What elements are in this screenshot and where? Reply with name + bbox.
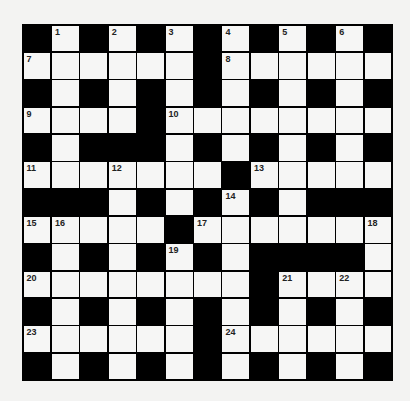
grid-cell[interactable]: 10 <box>166 108 193 134</box>
grid-cell[interactable] <box>365 272 392 298</box>
grid-cell[interactable]: 16 <box>52 217 79 243</box>
grid-cell[interactable] <box>137 217 164 243</box>
grid-cell[interactable] <box>109 272 136 298</box>
grid-cell[interactable]: 6 <box>336 26 363 52</box>
grid-cell[interactable] <box>251 326 278 352</box>
grid-cell[interactable] <box>279 190 306 216</box>
grid-cell[interactable] <box>308 217 335 243</box>
grid-cell[interactable] <box>365 108 392 134</box>
grid-cell[interactable] <box>336 53 363 79</box>
grid-cell[interactable] <box>80 162 107 188</box>
grid-cell[interactable] <box>52 354 79 380</box>
grid-cell[interactable] <box>109 299 136 325</box>
grid-cell[interactable] <box>336 299 363 325</box>
grid-cell[interactable]: 20 <box>24 272 51 298</box>
grid-cell[interactable] <box>222 354 249 380</box>
grid-cell[interactable] <box>251 217 278 243</box>
grid-cell[interactable] <box>279 135 306 161</box>
grid-cell[interactable] <box>279 217 306 243</box>
grid-cell[interactable] <box>109 326 136 352</box>
grid-cell[interactable] <box>222 299 249 325</box>
grid-cell[interactable]: 11 <box>24 162 51 188</box>
grid-cell[interactable] <box>336 80 363 106</box>
grid-cell[interactable]: 18 <box>365 217 392 243</box>
grid-cell[interactable] <box>80 53 107 79</box>
grid-cell[interactable] <box>279 326 306 352</box>
grid-cell[interactable] <box>279 354 306 380</box>
grid-cell[interactable] <box>336 108 363 134</box>
grid-cell[interactable] <box>365 53 392 79</box>
grid-cell[interactable]: 5 <box>279 26 306 52</box>
grid-cell[interactable]: 9 <box>24 108 51 134</box>
grid-cell[interactable] <box>109 108 136 134</box>
grid-cell[interactable] <box>222 135 249 161</box>
grid-cell[interactable]: 3 <box>166 26 193 52</box>
grid-cell[interactable] <box>137 53 164 79</box>
grid-cell[interactable]: 1 <box>52 26 79 52</box>
grid-cell[interactable] <box>308 162 335 188</box>
grid-cell[interactable] <box>109 244 136 270</box>
grid-cell[interactable] <box>166 190 193 216</box>
grid-cell[interactable] <box>137 326 164 352</box>
grid-cell[interactable] <box>194 272 221 298</box>
grid-cell[interactable] <box>194 108 221 134</box>
grid-cell[interactable]: 23 <box>24 326 51 352</box>
grid-cell[interactable]: 13 <box>251 162 278 188</box>
grid-cell[interactable]: 8 <box>222 53 249 79</box>
grid-cell[interactable]: 2 <box>109 26 136 52</box>
grid-cell[interactable] <box>194 162 221 188</box>
grid-cell[interactable] <box>166 354 193 380</box>
grid-cell[interactable]: 14 <box>222 190 249 216</box>
grid-cell[interactable] <box>365 244 392 270</box>
grid-cell[interactable] <box>166 80 193 106</box>
grid-cell[interactable] <box>365 162 392 188</box>
grid-cell[interactable]: 12 <box>109 162 136 188</box>
grid-cell[interactable] <box>52 244 79 270</box>
grid-cell[interactable] <box>279 162 306 188</box>
grid-cell[interactable] <box>52 299 79 325</box>
grid-cell[interactable] <box>80 326 107 352</box>
grid-cell[interactable] <box>166 326 193 352</box>
grid-cell[interactable] <box>308 326 335 352</box>
grid-cell[interactable] <box>52 80 79 106</box>
grid-cell[interactable] <box>52 162 79 188</box>
grid-cell[interactable] <box>166 53 193 79</box>
grid-cell[interactable] <box>80 272 107 298</box>
grid-cell[interactable] <box>52 135 79 161</box>
grid-cell[interactable] <box>222 80 249 106</box>
grid-cell[interactable] <box>166 135 193 161</box>
grid-cell[interactable] <box>365 326 392 352</box>
grid-cell[interactable] <box>336 135 363 161</box>
grid-cell[interactable] <box>308 108 335 134</box>
grid-cell[interactable] <box>166 162 193 188</box>
grid-cell[interactable] <box>109 217 136 243</box>
grid-cell[interactable] <box>137 162 164 188</box>
grid-cell[interactable] <box>52 108 79 134</box>
grid-cell[interactable]: 7 <box>24 53 51 79</box>
grid-cell[interactable] <box>52 272 79 298</box>
grid-cell[interactable]: 19 <box>166 244 193 270</box>
grid-cell[interactable] <box>80 217 107 243</box>
grid-cell[interactable] <box>308 53 335 79</box>
grid-cell[interactable] <box>222 108 249 134</box>
grid-cell[interactable] <box>222 244 249 270</box>
grid-cell[interactable] <box>109 190 136 216</box>
grid-cell[interactable] <box>336 326 363 352</box>
grid-cell[interactable] <box>251 53 278 79</box>
grid-cell[interactable] <box>52 326 79 352</box>
grid-cell[interactable] <box>251 108 278 134</box>
grid-cell[interactable] <box>109 354 136 380</box>
grid-cell[interactable] <box>222 272 249 298</box>
grid-cell[interactable] <box>166 272 193 298</box>
grid-cell[interactable] <box>279 80 306 106</box>
grid-cell[interactable] <box>222 217 249 243</box>
grid-cell[interactable]: 22 <box>336 272 363 298</box>
grid-cell[interactable] <box>279 108 306 134</box>
grid-cell[interactable] <box>279 53 306 79</box>
grid-cell[interactable]: 15 <box>24 217 51 243</box>
grid-cell[interactable] <box>52 53 79 79</box>
grid-cell[interactable]: 4 <box>222 26 249 52</box>
grid-cell[interactable] <box>308 272 335 298</box>
grid-cell[interactable] <box>336 354 363 380</box>
grid-cell[interactable] <box>80 108 107 134</box>
